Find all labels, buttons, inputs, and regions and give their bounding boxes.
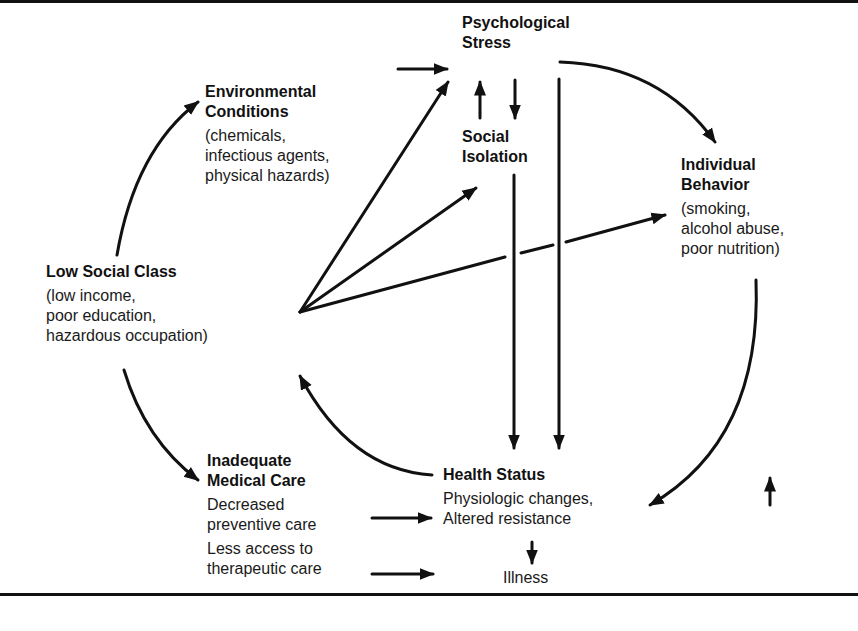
node-social-isolation: Social Isolation (462, 127, 528, 167)
node-environmental-conditions: Environmental Conditions (chemicals, inf… (205, 82, 330, 186)
arrow-class-to-environment (117, 102, 198, 255)
node-inadequate-medical-care: Inadequate Medical Care Decreased preven… (207, 451, 322, 579)
arrow-class-to-medical (124, 370, 198, 480)
node-individual-behavior: Individual Behavior (smoking, alcohol ab… (681, 155, 784, 259)
node-low-social-class: Low Social Class (low income, poor educa… (46, 262, 208, 346)
node-illness: Illness (503, 568, 548, 588)
node-health-status: Health Status Physiologic changes, Alter… (443, 465, 593, 529)
arrow-hub-to-isolation (300, 188, 476, 312)
arrow-stress-to-behavior (560, 62, 715, 142)
arrow-behavior-to-health (650, 280, 756, 505)
node-psychological-stress: Psychological Stress (462, 13, 570, 53)
